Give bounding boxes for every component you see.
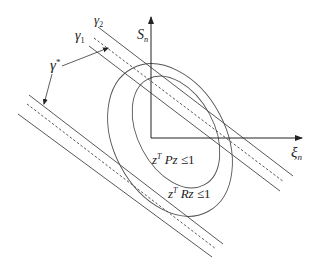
gamma-star-label: γ* <box>50 58 60 73</box>
ellipse-pz <box>114 61 237 203</box>
region-rz-label: zT Rz ≤1 <box>168 187 211 200</box>
gamma2-label: γ2 <box>94 13 103 29</box>
region-rz-relation: ≤1 <box>194 186 211 201</box>
vertical-axis-symbol: S <box>137 27 144 42</box>
gamma-star-leader-lower <box>44 74 52 104</box>
horizontal-axis-label: ξn <box>291 145 302 162</box>
region-rz-matrix: Rz <box>181 186 194 201</box>
gamma-star-superscript: * <box>56 57 61 67</box>
vertical-axis-subscript: n <box>144 35 148 44</box>
region-pz-matrix: Pz <box>165 152 178 167</box>
gamma2-subscript: 2 <box>99 20 103 29</box>
lower-outer-line-a <box>29 95 223 244</box>
lower-band <box>18 95 223 257</box>
gamma1-line <box>89 46 280 191</box>
region-pz-transpose: T <box>157 152 161 161</box>
gamma2-line <box>98 27 293 176</box>
gamma1-label: γ1 <box>75 29 85 45</box>
gamma1-subscript: 1 <box>81 36 85 45</box>
region-pz-label: zT Pz ≤1 <box>152 153 195 166</box>
lower-center-dashed-line <box>27 104 216 249</box>
ellipse-group <box>83 42 258 238</box>
region-rz-transpose: T <box>173 186 177 195</box>
region-pz-relation: ≤1 <box>178 152 195 167</box>
ellipse-rz <box>83 42 258 238</box>
vertical-axis-label: Sn <box>137 28 148 44</box>
horizontal-axis-subscript: n <box>297 152 302 162</box>
gamma-star-leader-upper <box>62 48 108 66</box>
ellipse-band-diagram <box>0 0 317 267</box>
